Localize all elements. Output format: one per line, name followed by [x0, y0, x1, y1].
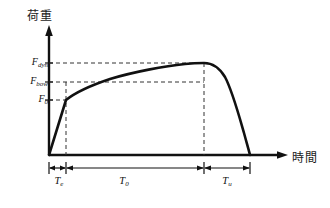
interval-measures — [49, 162, 250, 174]
load-curve — [49, 63, 250, 155]
y-label-fbow: Fbow — [8, 76, 48, 86]
x-axis-title: 時間 — [292, 148, 317, 165]
measure-t0 — [66, 166, 204, 171]
measure-tu — [204, 166, 250, 171]
y-axis-title: 荷重 — [27, 6, 52, 23]
y-label-f0-base: F — [38, 93, 44, 104]
load-time-chart: 荷重 時間 Fdyn Fbow F0 Te T0 Tu — [0, 0, 330, 208]
x-label-t0: T0 — [111, 176, 137, 187]
y-axis — [45, 25, 53, 155]
measure-te — [49, 166, 66, 171]
x-label-tu-sub: u — [228, 180, 232, 188]
y-label-fdyn-sub: dyn — [38, 61, 48, 69]
y-label-fdyn: Fdyn — [8, 57, 48, 67]
x-label-tu: Tu — [214, 176, 240, 187]
y-label-f0: F0 — [8, 94, 48, 104]
x-label-t0-sub: 0 — [125, 180, 129, 188]
reference-lines — [49, 63, 204, 155]
x-axis — [49, 151, 288, 159]
y-label-fbow-sub: bow — [36, 80, 48, 88]
y-label-fdyn-base: F — [32, 56, 38, 67]
y-label-f0-sub: 0 — [45, 98, 49, 106]
x-label-te: Te — [46, 176, 72, 187]
